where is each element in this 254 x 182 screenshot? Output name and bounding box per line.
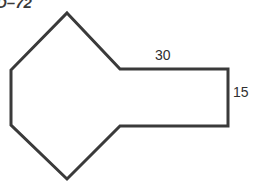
geometry-figure-screenshot: D–72 30 15 — [0, 0, 254, 182]
polygon-figure — [0, 0, 254, 182]
problem-number-label: D–72 — [0, 0, 32, 10]
composite-polygon-shape — [11, 13, 228, 179]
dimension-label-top: 30 — [155, 48, 171, 62]
dimension-label-right: 15 — [233, 85, 249, 99]
